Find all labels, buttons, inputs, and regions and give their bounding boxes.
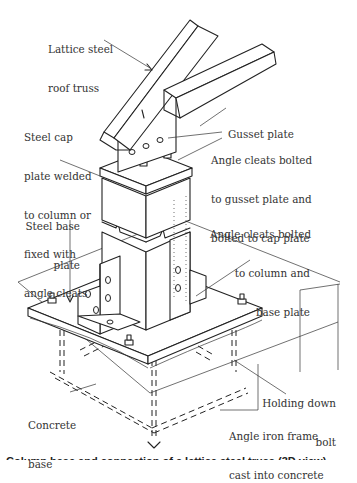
label-roof-truss: Lattice steel roof truss	[48, 17, 113, 108]
label-angle-cleats-base: Angle cleats bolted to column and base p…	[210, 202, 310, 332]
label-concrete-base: Concrete base	[28, 393, 76, 483]
figure-caption: Column base and connection of a lattice …	[0, 452, 357, 460]
label-base-plate: Steel base plate	[18, 194, 80, 285]
label-angle-iron-frame: Angle iron frame cast into concrete	[229, 404, 324, 483]
